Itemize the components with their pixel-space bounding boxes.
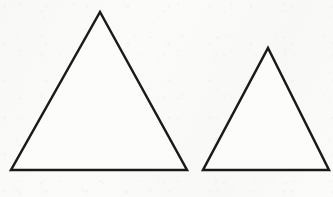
large-triangle <box>11 12 187 170</box>
shapes-layer <box>0 0 333 197</box>
small-triangle <box>203 48 329 170</box>
figure-canvas <box>0 0 333 197</box>
